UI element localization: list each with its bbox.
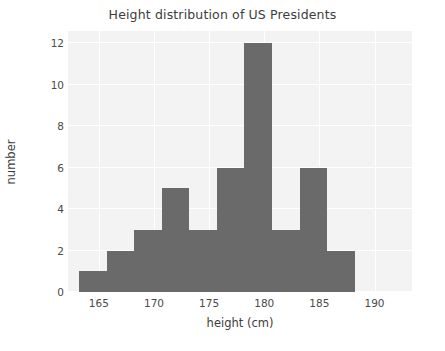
y-tick-label: 8 bbox=[24, 120, 64, 132]
bar bbox=[300, 168, 328, 292]
bar bbox=[79, 271, 107, 292]
y-tick-label: 4 bbox=[24, 203, 64, 215]
y-tick-label: 10 bbox=[24, 79, 64, 91]
y-tick-label: 12 bbox=[24, 37, 64, 49]
x-tick-label: 190 bbox=[345, 297, 405, 309]
x-axis-tick-labels: 165170175180185190 bbox=[68, 297, 412, 313]
chart-title: Height distribution of US Presidents bbox=[0, 7, 445, 22]
x-tick-label: 170 bbox=[124, 297, 184, 309]
chart-figure: Height distribution of US Presidents 024… bbox=[0, 0, 445, 351]
bar bbox=[272, 230, 300, 292]
y-tick-label: 0 bbox=[24, 286, 64, 298]
y-axis-label-container: number bbox=[0, 31, 22, 292]
bar bbox=[189, 230, 217, 292]
bar bbox=[244, 43, 272, 292]
bar bbox=[217, 168, 245, 292]
x-tick-label: 175 bbox=[179, 297, 239, 309]
bar bbox=[327, 251, 355, 292]
x-tick-label: 165 bbox=[69, 297, 129, 309]
x-tick-label: 180 bbox=[234, 297, 294, 309]
x-axis-label: height (cm) bbox=[68, 316, 412, 330]
bar-series bbox=[68, 31, 412, 292]
y-axis-tick-labels: 024681012 bbox=[20, 31, 64, 292]
y-tick-label: 6 bbox=[24, 162, 64, 174]
plot-area bbox=[68, 31, 412, 292]
bar bbox=[162, 188, 190, 292]
y-tick-label: 2 bbox=[24, 245, 64, 257]
bar bbox=[107, 251, 135, 292]
bar bbox=[134, 230, 162, 292]
y-axis-label: number bbox=[4, 139, 18, 184]
x-tick-label: 185 bbox=[289, 297, 349, 309]
